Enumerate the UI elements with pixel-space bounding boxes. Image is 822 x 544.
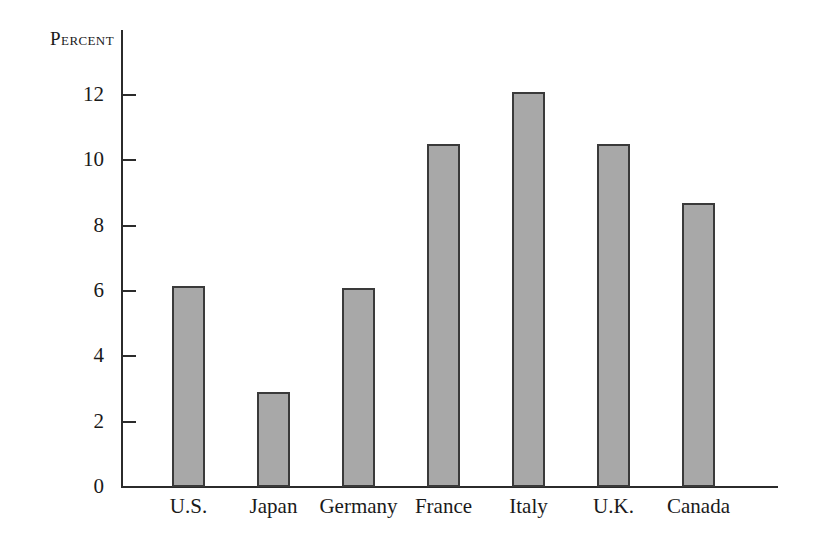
bar	[172, 286, 205, 487]
y-axis-line	[121, 30, 123, 488]
y-tick-mark	[123, 421, 136, 423]
x-tick-label: Canada	[639, 495, 759, 518]
y-tick-label: 2	[4, 411, 104, 432]
y-tick-mark	[123, 225, 136, 227]
bar	[512, 92, 545, 487]
y-tick-mark	[123, 94, 136, 96]
bar	[257, 392, 290, 487]
y-axis-title: Percent	[0, 28, 114, 50]
y-tick-label: 0	[4, 476, 104, 497]
y-tick-label: 6	[4, 280, 104, 301]
y-tick-label: 8	[4, 215, 104, 236]
bar	[597, 144, 630, 487]
y-tick-mark	[123, 159, 136, 161]
bar	[342, 288, 375, 487]
y-tick-mark	[123, 290, 136, 292]
bar	[682, 203, 715, 487]
y-tick-mark	[123, 355, 136, 357]
bar	[427, 144, 460, 487]
y-tick-label: 4	[4, 345, 104, 366]
y-tick-mark	[123, 486, 136, 488]
bar-chart: Percent 024681012 U.S.JapanGermanyFrance…	[0, 0, 822, 544]
y-tick-label: 12	[4, 84, 104, 105]
y-tick-label: 10	[4, 149, 104, 170]
